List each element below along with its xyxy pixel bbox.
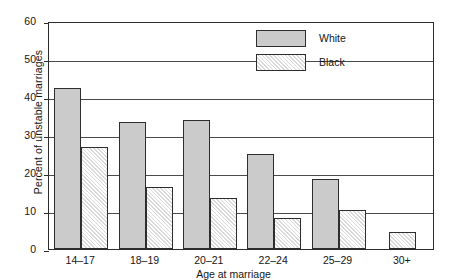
- gridline: [49, 99, 433, 100]
- bar-black-22-24: [274, 218, 301, 249]
- gridline: [49, 137, 433, 138]
- y-axis-tickmark: [44, 61, 49, 62]
- x-axis-tick-label: 14–17: [48, 254, 112, 266]
- legend-item-label: White: [319, 32, 346, 44]
- y-axis-tickmark: [44, 175, 49, 176]
- gridline: [49, 61, 433, 62]
- x-axis-tick-label: 20–21: [177, 254, 241, 266]
- legend-item-label: Black: [319, 56, 345, 68]
- x-axis-title-text: Age at marriage: [178, 268, 271, 280]
- x-axis-tick-label: 25–29: [305, 254, 369, 266]
- x-axis-tick-label: 30+: [370, 254, 434, 266]
- legend-item-white: White: [256, 28, 346, 48]
- y-axis-tick-label: 0: [10, 244, 36, 255]
- bar-white-25-29: [312, 179, 339, 249]
- x-axis-title: Age at marriage: [0, 268, 449, 280]
- bar-black-18-19: [146, 187, 173, 249]
- y-axis-tick-label: 30: [10, 130, 36, 141]
- hatched-swatch: [256, 54, 306, 71]
- y-axis-tickmark: [44, 23, 49, 24]
- y-axis-tickmark: [44, 99, 49, 100]
- y-axis-tick-label: 40: [10, 92, 36, 103]
- y-axis-tick-label: 10: [10, 206, 36, 217]
- bar-white-22-24: [247, 154, 274, 249]
- solid-gray-swatch: [256, 30, 306, 47]
- y-axis-tickmark: [44, 251, 49, 252]
- bar-white-18-19: [119, 122, 146, 249]
- bar-black-14-17: [81, 147, 108, 249]
- y-axis-tickmark: [44, 137, 49, 138]
- x-axis-tick-label: 22–24: [241, 254, 305, 266]
- plot-area: [48, 22, 434, 250]
- bar-black-20-21: [210, 198, 237, 249]
- bar-white-14-17: [54, 88, 81, 250]
- bar-white-20-21: [183, 120, 210, 249]
- y-axis-tick-label: 50: [10, 54, 36, 65]
- bar-black-25-29: [339, 210, 366, 249]
- x-axis-tick-label: 18–19: [112, 254, 176, 266]
- chart-legend: WhiteBlack: [256, 28, 346, 76]
- y-axis-title: Percent of unstable marriages: [32, 12, 44, 232]
- legend-item-black: Black: [256, 52, 346, 72]
- y-axis-tick-label: 60: [10, 16, 36, 27]
- y-axis-tickmark: [44, 213, 49, 214]
- y-axis-tick-label: 20: [10, 168, 36, 179]
- bar-black-30-: [389, 232, 416, 249]
